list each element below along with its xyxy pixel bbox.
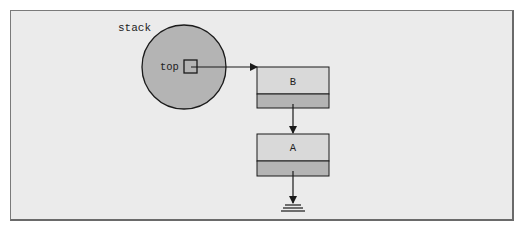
top-label: top: [160, 61, 179, 73]
node-a: A: [257, 134, 329, 176]
stack-label: stack: [118, 22, 151, 34]
node-b: B: [257, 67, 329, 108]
null-ground-icon: [281, 205, 305, 211]
node-b-label: B: [290, 76, 296, 88]
node-a-label: A: [290, 142, 297, 154]
stack-diagram: stack top B A: [0, 0, 525, 234]
